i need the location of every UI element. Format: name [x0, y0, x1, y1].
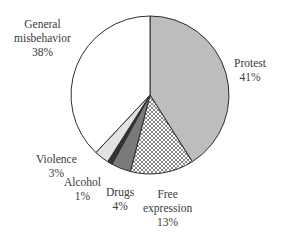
label-general-pct: 38% — [14, 45, 71, 59]
label-alcohol: Alcohol 1% — [64, 175, 101, 203]
label-drugs-name: Drugs — [106, 185, 134, 199]
label-general-name-2: misbehavior — [14, 31, 71, 45]
label-free-expression-name-2: expression — [143, 201, 192, 215]
label-drugs: Drugs 4% — [106, 185, 134, 213]
label-general-misbehavior: General misbehavior 38% — [14, 17, 71, 59]
label-protest-pct: 41% — [234, 70, 266, 84]
label-protest: Protest 41% — [234, 56, 266, 84]
label-violence-name: Violence — [36, 152, 77, 166]
label-free-expression-name-1: Free — [143, 187, 192, 201]
label-general-name-1: General — [14, 17, 71, 31]
label-alcohol-pct: 1% — [64, 189, 101, 203]
label-alcohol-name: Alcohol — [64, 175, 101, 189]
label-drugs-pct: 4% — [106, 199, 134, 213]
label-free-expression: Free expression 13% — [143, 187, 192, 229]
pie-slices — [71, 16, 229, 174]
label-protest-name: Protest — [234, 56, 266, 70]
label-free-expression-pct: 13% — [143, 215, 192, 229]
